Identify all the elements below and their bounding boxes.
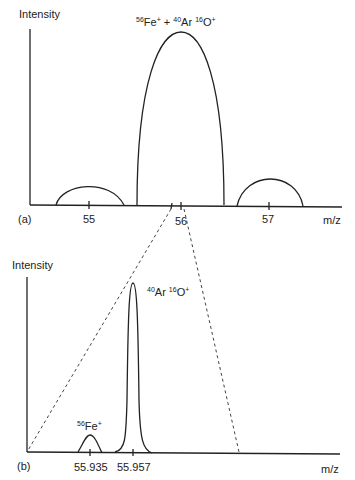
panel-a [30, 29, 342, 210]
panel-b [27, 277, 340, 456]
panel-b-label: (b) [17, 460, 30, 472]
peak-ar40o16 [115, 283, 152, 453]
ar40o16-annotation: 40Ar 16O+ [147, 286, 189, 298]
tick-label-55-957: 55.957 [117, 461, 151, 473]
panel-a-xlabel: m/z [323, 214, 341, 226]
tick-label-55: 55 [83, 213, 95, 225]
zoom-guide-lines [27, 209, 239, 452]
mass-spectrum-figure: Intensity (a) 55 56 57 m/z 56Fe+ + 40Ar … [0, 0, 355, 480]
panel-b-ylabel: Intensity [12, 259, 53, 271]
fe56-annotation: 56Fe+ [77, 420, 102, 432]
tick-label-57: 57 [262, 213, 274, 225]
peak-55 [56, 187, 124, 205]
panel-a-ylabel: Intensity [19, 8, 60, 20]
peak-57 [237, 179, 303, 206]
tick-label-55-935: 55.935 [74, 461, 108, 473]
peak-56-annotation: 56Fe+ + 40Ar 16O+ [136, 16, 216, 28]
peak-56 [137, 32, 224, 205]
tick-zoom-left [171, 203, 172, 209]
panel-b-xlabel: m/z [321, 463, 339, 475]
panel-b-x-axis [27, 452, 340, 454]
panel-a-x-axis [30, 205, 342, 207]
zoom-line-left [27, 209, 171, 452]
zoom-line-right [184, 209, 239, 452]
panel-a-label: (a) [18, 213, 31, 225]
